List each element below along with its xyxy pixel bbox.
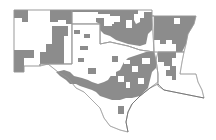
unshaded-county [108,18,114,24]
unshaded-county [142,58,150,64]
unshaded-county [124,60,130,64]
choropleth-map [0,0,216,140]
unshaded-county [174,18,180,24]
shaded-county-region [118,106,124,114]
unshaded-county [110,70,116,76]
shaded-county-region [88,68,96,74]
shaded-county-region [74,30,80,34]
unshaded-county [138,78,144,84]
shaded-county-region [80,46,88,50]
unshaded-county [132,66,138,72]
unshaded-county [126,20,132,28]
unshaded-county [118,76,124,82]
shaded-county-region [112,56,118,62]
shaded-county-region [78,58,84,62]
unshaded-county [126,82,130,88]
shaded-county-region [84,34,90,38]
